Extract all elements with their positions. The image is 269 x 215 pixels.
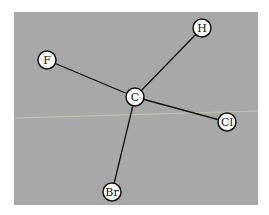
- atom-node-cl: Cl: [218, 113, 236, 131]
- atom-label: H: [197, 22, 207, 35]
- atom-node-br: Br: [103, 183, 121, 201]
- molecule-diagram: CHFClBr: [0, 0, 269, 215]
- diagram-panel: [14, 12, 258, 205]
- atom-node-f: F: [38, 51, 56, 69]
- atom-label: C: [131, 91, 139, 104]
- atom-label: Br: [105, 186, 119, 199]
- atom-label: F: [43, 54, 51, 67]
- atom-label: Cl: [221, 116, 233, 129]
- atom-node-h: H: [193, 19, 211, 37]
- atom-node-c: C: [126, 88, 144, 106]
